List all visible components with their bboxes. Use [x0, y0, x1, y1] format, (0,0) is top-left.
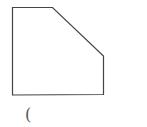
figure-caption: (	[25, 106, 31, 124]
pentagon-figure	[0, 0, 147, 127]
pentagon-shape	[13, 8, 104, 96]
